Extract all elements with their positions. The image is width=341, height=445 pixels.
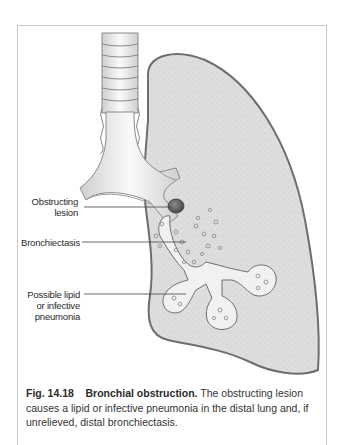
- label-line: or infective: [6, 300, 80, 311]
- label-line: Obstructing: [10, 196, 78, 207]
- label-pneumonia: Possible lipid or infective pneumonia: [6, 289, 80, 322]
- label-line: lesion: [10, 207, 78, 218]
- label-line: Possible lipid: [6, 289, 80, 300]
- figure-caption: Fig. 14.18 Bronchial obstruction. The ob…: [26, 386, 322, 430]
- label-line: pneumonia: [6, 311, 80, 322]
- label-bronchiectasis: Bronchiectasis: [4, 237, 80, 248]
- figure-number: Fig. 14.18: [26, 387, 74, 399]
- obstructing-lesion: [168, 199, 184, 213]
- label-obstructing-lesion: Obstructing lesion: [10, 196, 78, 218]
- figure-title: Bronchial obstruction.: [86, 387, 198, 399]
